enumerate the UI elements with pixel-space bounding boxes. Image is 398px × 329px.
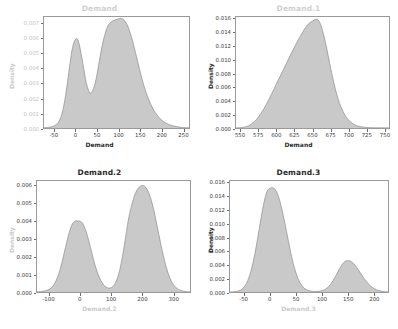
y-tick-mark xyxy=(227,251,230,252)
y-tick-label: 0.005 xyxy=(0,50,39,56)
y-tick-label: 0.008 xyxy=(199,71,231,77)
x-tick-mark xyxy=(331,129,332,132)
x-tick-mark xyxy=(270,293,271,296)
y-tick-label: 0.000 xyxy=(199,290,225,296)
y-tick-label: 0.003 xyxy=(0,236,32,242)
x-tick-label: 250 xyxy=(178,132,188,138)
density-plot-figure: Demand0.0000.0010.0020.0030.0040.0050.00… xyxy=(0,0,398,329)
x-tick-mark xyxy=(313,129,314,132)
plot-area xyxy=(235,16,390,129)
y-tick-mark xyxy=(233,129,236,130)
y-tick-mark xyxy=(227,224,230,225)
panel-title: Demand.3 xyxy=(199,168,398,177)
y-tick-mark xyxy=(34,239,37,240)
x-tick-label: 100 xyxy=(114,132,124,138)
plot-area xyxy=(229,180,389,293)
y-tick-mark xyxy=(34,185,37,186)
x-tick-label: 0 xyxy=(74,132,77,138)
x-tick-mark xyxy=(119,129,120,132)
y-tick-label: 0.010 xyxy=(199,57,231,63)
y-tick-mark xyxy=(233,46,236,47)
y-tick-label: 0.010 xyxy=(199,221,225,227)
y-tick-mark xyxy=(41,83,44,84)
y-tick-mark xyxy=(233,60,236,61)
y-tick-mark xyxy=(233,115,236,116)
y-tick-mark xyxy=(41,129,44,130)
y-tick-label: 0.007 xyxy=(0,20,39,26)
x-tick-label: 100 xyxy=(317,296,327,302)
y-tick-mark xyxy=(227,279,230,280)
x-tick-label: 750 xyxy=(380,132,390,138)
x-tick-mark xyxy=(276,129,277,132)
y-tick-label: 0.006 xyxy=(0,35,39,41)
x-tick-mark xyxy=(322,293,323,296)
y-tick-mark xyxy=(227,293,230,294)
x-tick-label: 200 xyxy=(157,132,167,138)
plot-area xyxy=(36,180,191,293)
x-axis-label: Demand.2 xyxy=(0,305,199,312)
x-tick-label: 50 xyxy=(94,132,101,138)
y-tick-label: 0.005 xyxy=(0,200,32,206)
x-tick-label: 100 xyxy=(106,296,116,302)
y-axis-label: Density xyxy=(207,63,214,89)
x-tick-mark xyxy=(174,293,175,296)
x-tick-label: 0 xyxy=(268,296,271,302)
density-fill xyxy=(44,18,189,128)
density-panel-demand-2: Demand.20.0000.0010.0020.0030.0040.0050.… xyxy=(0,164,199,328)
x-tick-label: 50 xyxy=(292,296,299,302)
y-tick-mark xyxy=(41,68,44,69)
density-fill xyxy=(37,185,190,292)
x-tick-label: 625 xyxy=(289,132,299,138)
x-tick-label: 150 xyxy=(343,296,353,302)
y-axis-label: Density xyxy=(8,227,15,253)
y-axis-label: Density xyxy=(207,227,214,253)
y-tick-mark xyxy=(41,23,44,24)
y-tick-mark xyxy=(233,101,236,102)
y-tick-mark xyxy=(41,38,44,39)
y-tick-label: 0.001 xyxy=(0,272,32,278)
x-tick-label: -100 xyxy=(42,296,54,302)
x-tick-mark xyxy=(111,293,112,296)
y-tick-mark xyxy=(41,53,44,54)
y-tick-label: 0.002 xyxy=(0,254,32,260)
y-tick-label: 0.003 xyxy=(0,80,39,86)
density-curve-svg xyxy=(236,17,389,128)
y-tick-label: 0.016 xyxy=(199,15,231,21)
x-tick-label: 550 xyxy=(235,132,245,138)
x-tick-mark xyxy=(240,129,241,132)
x-tick-mark xyxy=(349,129,350,132)
y-tick-mark xyxy=(34,275,37,276)
y-tick-mark xyxy=(41,99,44,100)
x-axis-label: Demand xyxy=(199,141,398,148)
x-tick-mark xyxy=(348,293,349,296)
x-tick-mark xyxy=(54,129,55,132)
density-panel-demand-3: Demand.30.0000.0020.0040.0060.0080.0100.… xyxy=(199,164,398,328)
x-tick-label: 150 xyxy=(135,132,145,138)
y-tick-label: 0.001 xyxy=(0,111,39,117)
x-tick-label: 725 xyxy=(362,132,372,138)
y-tick-label: 0.014 xyxy=(199,29,231,35)
y-tick-label: 0.014 xyxy=(199,193,225,199)
density-curve-svg xyxy=(230,181,388,292)
y-tick-label: 0.000 xyxy=(199,126,231,132)
y-tick-label: 0.004 xyxy=(0,65,39,71)
y-tick-mark xyxy=(233,32,236,33)
density-panel-demand-1: Demand.10.0000.0020.0040.0060.0080.0100.… xyxy=(199,0,398,164)
x-tick-mark xyxy=(294,129,295,132)
x-axis-label: Demand xyxy=(0,141,199,148)
x-tick-mark xyxy=(385,129,386,132)
y-tick-mark xyxy=(34,257,37,258)
x-tick-label: 200 xyxy=(137,296,147,302)
y-tick-mark xyxy=(34,203,37,204)
y-tick-mark xyxy=(233,87,236,88)
x-tick-mark xyxy=(75,129,76,132)
y-tick-label: 0.002 xyxy=(199,276,225,282)
x-tick-label: 600 xyxy=(271,132,281,138)
density-fill xyxy=(230,188,388,292)
density-fill xyxy=(236,19,389,128)
x-tick-label: 700 xyxy=(344,132,354,138)
y-axis-label: Density xyxy=(8,63,15,89)
y-tick-label: 0.006 xyxy=(199,84,231,90)
density-curve-svg xyxy=(44,17,189,128)
y-tick-mark xyxy=(227,196,230,197)
